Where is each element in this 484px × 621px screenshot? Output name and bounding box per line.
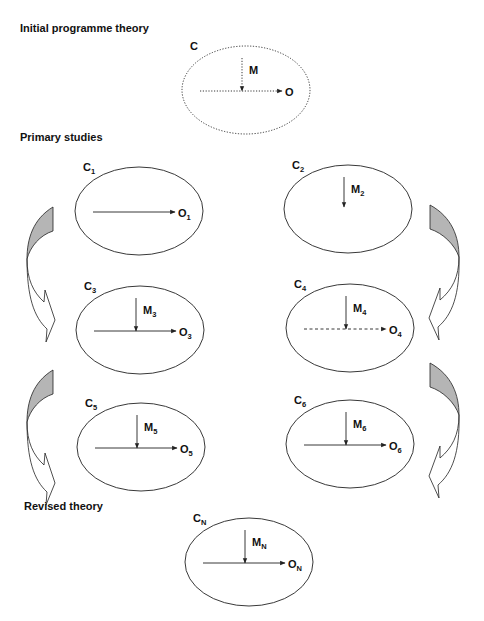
cmo-node-study3: C3O3M3 (76, 280, 204, 374)
context-label: C (190, 40, 198, 52)
outcome-label: O (285, 86, 294, 98)
mechanism-label: M5 (144, 421, 157, 436)
outcome-label: O1 (178, 207, 191, 222)
arrow-head-body (27, 259, 55, 342)
cmo-node-study6: C6O6M6 (286, 394, 414, 488)
mechanism-label: M3 (143, 304, 156, 319)
cmo-node-revised: CNONMN (185, 512, 313, 606)
outcome-label: O4 (389, 324, 403, 339)
cmo-node-study5: C5O5M5 (77, 397, 205, 491)
context-label: C6 (294, 394, 306, 409)
curved-flow-arrow-left (27, 207, 55, 342)
cmo-node-initial: COM (182, 40, 310, 134)
context-label: C1 (83, 161, 95, 176)
mechanism-label: M (249, 64, 258, 76)
mechanism-label: M2 (351, 183, 364, 198)
arrow-shaded-band (430, 205, 459, 257)
cmo-diagram: COMC1O1C2M2C3O3M3C4O4M4C5O5M5C6O6M6CNONM… (0, 0, 484, 621)
arrow-head-body (429, 257, 459, 340)
mechanism-label: M6 (353, 418, 366, 433)
cmo-node-study1: C1O1 (75, 161, 203, 255)
cmo-node-study2: C2M2 (284, 159, 412, 253)
context-label: CN (193, 512, 206, 527)
arrow-head-body (429, 415, 459, 498)
curved-flow-arrow-right (429, 363, 459, 498)
context-label: C5 (85, 397, 97, 412)
outcome-label: O3 (179, 326, 192, 341)
arrow-head-body (27, 422, 55, 505)
arrow-shaded-band (27, 370, 53, 422)
outcome-label: O5 (180, 443, 193, 458)
outcome-label: ON (288, 558, 302, 573)
context-label: C3 (84, 280, 96, 295)
context-label: C4 (294, 278, 307, 293)
mechanism-label: MN (252, 536, 267, 551)
mechanism-label: M4 (353, 302, 367, 317)
arrow-shaded-band (430, 363, 459, 415)
curved-flow-arrow-left (27, 370, 55, 505)
arrow-shaded-band (27, 207, 53, 259)
outcome-label: O6 (389, 440, 402, 455)
context-ellipse (284, 165, 412, 253)
curved-flow-arrow-right (429, 205, 459, 340)
context-label: C2 (292, 159, 304, 174)
cmo-node-study4: C4O4M4 (286, 278, 414, 372)
